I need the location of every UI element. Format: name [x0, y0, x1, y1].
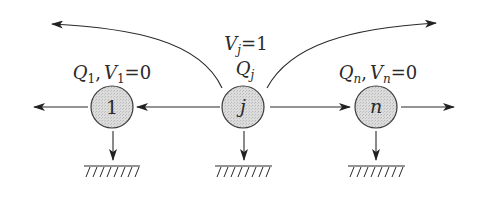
node-1: 1 — [91, 86, 133, 128]
ground-symbol-j — [215, 166, 272, 177]
node-1-annotation: Q1,V1=0 — [73, 62, 151, 86]
node-n-annotation: Qn,Vn=0 — [339, 62, 418, 86]
network-flow-diagram: 1 j n Q1,V1=0 Vj=1 Qj Qn,Vn=0 — [0, 0, 484, 198]
node-1-label: 1 — [106, 96, 118, 118]
ground-symbol-1 — [84, 166, 140, 177]
node-n-label: n — [370, 95, 382, 117]
node-j-voltage-annotation: Vj=1 — [224, 33, 267, 57]
node-n: n — [355, 86, 397, 128]
ground-symbol-n — [348, 166, 405, 177]
node-j: j — [222, 86, 264, 128]
node-j-flow-annotation: Qj — [236, 58, 255, 82]
